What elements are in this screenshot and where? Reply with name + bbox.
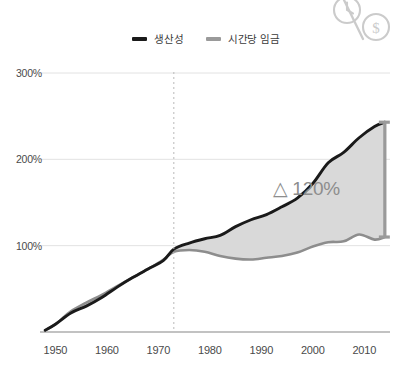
chart-container: $ 생산성 시간당 임금 100%200%300%195019601970198…	[0, 0, 412, 378]
y-axis-tick-label: 100%	[0, 240, 42, 252]
x-axis-tick-label: 2010	[334, 344, 394, 356]
gap-value-label: △ 120%	[273, 177, 340, 200]
y-axis-tick-label: 200%	[0, 153, 42, 165]
plot-area	[0, 0, 412, 378]
y-axis-tick-label: 300%	[0, 67, 42, 79]
